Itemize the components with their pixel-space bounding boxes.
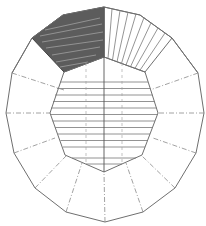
shaded-panel: [32, 7, 104, 72]
striped-panel: [104, 7, 172, 72]
pattern-diagram: [0, 0, 206, 226]
